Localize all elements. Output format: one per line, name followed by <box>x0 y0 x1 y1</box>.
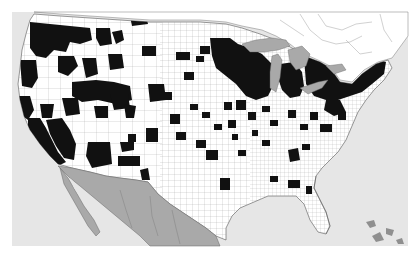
county-map <box>0 0 418 257</box>
map-frame <box>0 0 418 257</box>
